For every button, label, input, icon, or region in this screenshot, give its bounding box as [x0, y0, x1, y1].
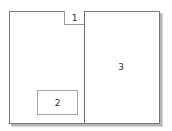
region-2-label: 2: [55, 98, 61, 108]
region-1-box: 1: [64, 11, 84, 25]
region-2-box: 2: [37, 90, 78, 115]
vertical-divider: [84, 11, 85, 123]
region-3-label: 3: [116, 62, 126, 72]
region-1-label: 1: [72, 13, 78, 23]
